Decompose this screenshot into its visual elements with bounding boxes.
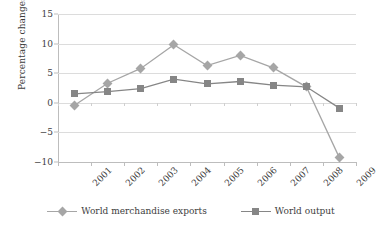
x-axis-label-2009: 2009 — [355, 165, 378, 188]
y-tick-label-5: 5 — [47, 68, 53, 78]
y-tick-label--5: −5 — [40, 127, 53, 137]
data-point-1-2002 — [104, 88, 111, 95]
percentage-changes-line-chart: Percentage changes 151050−5−10 200120022… — [0, 0, 382, 234]
legend-item-1[interactable]: World output — [241, 206, 335, 216]
data-point-1-2009 — [336, 105, 343, 112]
x-axis-label-2001: 2001 — [90, 165, 113, 188]
diamond-marker-icon — [47, 206, 77, 216]
legend-item-0[interactable]: World merchandise exports — [47, 206, 207, 216]
x-axis-label-2006: 2006 — [256, 165, 279, 188]
chart-legend: World merchandise exportsWorld output — [0, 206, 382, 216]
legend-label-1: World output — [275, 206, 335, 216]
y-tick-label-15: 15 — [42, 9, 53, 19]
zero-line-tick-9 — [356, 103, 357, 106]
x-tick-mark-9 — [356, 162, 357, 166]
series-lines — [58, 14, 356, 162]
x-axis-label-2002: 2002 — [123, 165, 146, 188]
data-point-1-2006 — [237, 78, 244, 85]
square-marker-icon — [241, 206, 271, 216]
x-axis-label-2008: 2008 — [322, 165, 345, 188]
plot-area: 151050−5−10 — [58, 14, 356, 162]
data-point-1-2008 — [303, 83, 310, 90]
y-tick-label-10: 10 — [42, 39, 53, 49]
legend-marker — [252, 208, 259, 215]
x-axis-label-2004: 2004 — [190, 165, 213, 188]
x-axis-labels: 200120022003200420052006200720082009 — [58, 165, 356, 203]
y-tick-label-0: 0 — [47, 98, 53, 108]
x-axis-label-2007: 2007 — [289, 165, 312, 188]
data-point-1-2003 — [137, 85, 144, 92]
gridline--10 — [58, 162, 356, 163]
x-axis-label-2005: 2005 — [223, 165, 246, 188]
y-tick-label--10: −10 — [34, 157, 53, 167]
legend-label-0: World merchandise exports — [81, 206, 207, 216]
data-point-1-2001 — [71, 90, 78, 97]
y-axis-title: Percentage changes — [17, 0, 27, 103]
x-axis-label-2003: 2003 — [156, 165, 179, 188]
data-point-1-2004 — [170, 76, 177, 83]
data-point-1-2007 — [270, 82, 277, 89]
data-point-1-2005 — [204, 80, 211, 87]
legend-marker — [57, 206, 67, 216]
